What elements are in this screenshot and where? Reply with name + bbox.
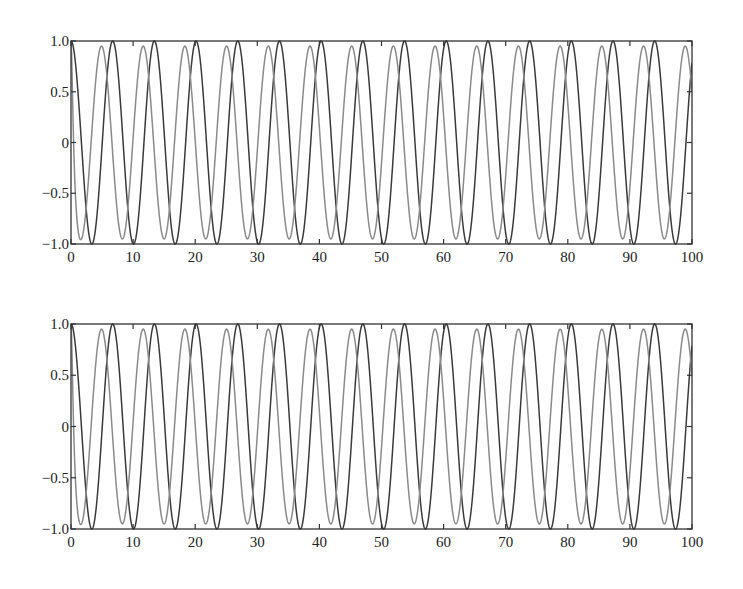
x-tick-label: 90 <box>622 534 637 550</box>
top-plot: 01020304050607080901001.00.50−0.5−1.0 <box>42 33 703 265</box>
x-tick-label: 50 <box>374 249 389 265</box>
y-tick-label: 0.5 <box>50 84 69 100</box>
y-tick-label: 0 <box>62 135 70 151</box>
figure: 01020304050607080901001.00.50−0.5−1.0 01… <box>0 0 743 589</box>
x-tick-label: 40 <box>312 534 327 550</box>
x-tick-label: 30 <box>250 249 265 265</box>
y-tick-label: −1.0 <box>42 236 69 252</box>
bottom-plot: 01020304050607080901001.00.50−0.5−1.0 <box>42 316 703 550</box>
x-tick-label: 60 <box>436 534 451 550</box>
x-tick-label: 10 <box>126 249 141 265</box>
x-tick-label: 50 <box>374 534 389 550</box>
y-tick-label: −0.5 <box>42 470 69 486</box>
x-tick-label: 10 <box>126 534 141 550</box>
x-tick-label: 20 <box>188 249 203 265</box>
y-tick-label: −0.5 <box>42 185 69 201</box>
y-tick-label: 1.0 <box>50 33 69 49</box>
x-tick-label: 60 <box>436 249 451 265</box>
x-tick-label: 90 <box>622 249 637 265</box>
x-tick-label: 80 <box>560 534 575 550</box>
x-tick-label: 40 <box>312 249 327 265</box>
y-tick-label: −1.0 <box>42 521 69 537</box>
y-tick-label: 0 <box>62 419 70 435</box>
x-tick-label: 100 <box>681 534 704 550</box>
x-tick-label: 20 <box>188 534 203 550</box>
x-tick-label: 30 <box>250 534 265 550</box>
x-tick-label: 70 <box>498 534 513 550</box>
y-tick-label: 1.0 <box>50 316 69 332</box>
series-dark-line <box>71 324 692 529</box>
y-tick-label: 0.5 <box>50 367 69 383</box>
x-tick-label: 100 <box>681 249 704 265</box>
series-dark-line <box>71 41 692 244</box>
x-tick-label: 80 <box>560 249 575 265</box>
x-tick-label: 70 <box>498 249 513 265</box>
